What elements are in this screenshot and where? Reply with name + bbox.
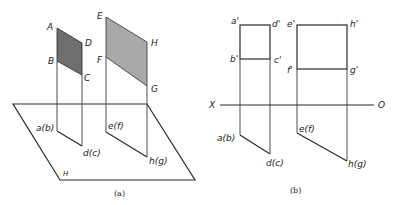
plane-efgh xyxy=(106,17,147,86)
caption-b: (b) xyxy=(290,186,301,195)
label-b-ab: a(b) xyxy=(217,133,235,143)
caption-a: (a) xyxy=(114,189,125,198)
label-h-prime: h' xyxy=(350,19,358,29)
label-e-prime: e' xyxy=(287,19,295,29)
label-C: C xyxy=(84,73,91,83)
label-H: H xyxy=(151,38,158,48)
label-D: D xyxy=(85,38,92,48)
label-A: A xyxy=(46,22,53,32)
projection-diagram: A D B C E H F G a(b) d(c) e(f) h(g) H (a… xyxy=(0,0,396,205)
label-B: B xyxy=(48,56,54,66)
label-d-prime: d' xyxy=(272,19,280,29)
label-c-prime: c' xyxy=(274,55,281,65)
projection-eh xyxy=(106,132,147,157)
axis-label-X: X xyxy=(208,100,216,110)
figure-a: A D B C E H F G a(b) d(c) e(f) h(g) H (a… xyxy=(13,11,195,198)
front-view-abcd xyxy=(240,25,270,59)
label-b-prime: b' xyxy=(230,54,238,64)
figure-b: X O a' d' b' c' e' h' f' g' a(b) d(c) e(… xyxy=(208,16,385,195)
label-G: G xyxy=(151,84,158,94)
label-E: E xyxy=(97,11,103,21)
projection-ad xyxy=(57,131,82,146)
label-ef: e(f) xyxy=(108,121,124,131)
plane-abcd xyxy=(57,28,82,75)
top-view-ad xyxy=(240,135,270,154)
label-F: F xyxy=(97,55,103,65)
axis-label-O: O xyxy=(378,100,385,110)
label-a-prime: a' xyxy=(231,16,239,26)
label-ab: a(b) xyxy=(36,123,54,133)
label-b-dc: d(c) xyxy=(266,158,284,168)
label-dc: d(c) xyxy=(83,148,101,158)
label-hg: h(g) xyxy=(149,156,167,166)
horizontal-projection-plane xyxy=(13,104,195,180)
label-g-prime: g' xyxy=(350,65,358,75)
label-b-hg: h(g) xyxy=(348,159,366,169)
front-view-efgh xyxy=(297,25,347,69)
plane-symbol-H: H xyxy=(63,170,69,178)
label-b-ef: e(f) xyxy=(299,124,315,134)
label-f-prime: f' xyxy=(287,65,293,75)
top-view-eh xyxy=(297,133,347,161)
